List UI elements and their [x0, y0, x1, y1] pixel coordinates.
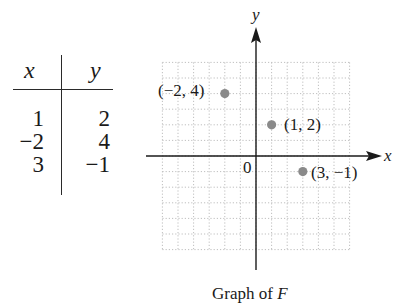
data-point — [298, 167, 307, 176]
caption-function-name: F — [277, 284, 287, 303]
point-label: (3, −1) — [311, 164, 357, 181]
point-label: (1, 2) — [284, 116, 321, 133]
data-point — [267, 120, 276, 129]
caption-prefix: Graph of — [212, 284, 277, 303]
graph-canvas — [0, 0, 397, 303]
data-point — [220, 89, 229, 98]
x-axis-label: x — [384, 147, 392, 164]
y-axis-label: y — [252, 6, 260, 23]
axes — [146, 27, 382, 270]
point-label: (−2, 4) — [158, 82, 204, 99]
coordinate-graph: y x 0 (−2, 4) (1, 2) (3, −1) Graph of F — [0, 0, 397, 303]
origin-label: 0 — [243, 159, 252, 176]
